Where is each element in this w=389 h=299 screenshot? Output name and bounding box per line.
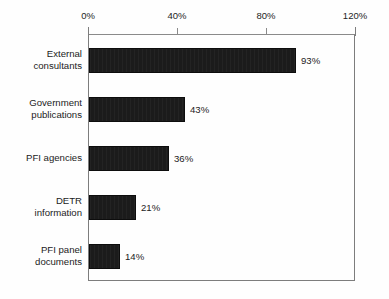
xtick-label-2: 80%	[256, 10, 275, 21]
bar-detr-information	[89, 195, 136, 220]
category-label-detr-information: DETR information	[0, 195, 82, 218]
category-label-external-consultants: External consultants	[0, 48, 82, 71]
bar-pfi-agencies	[89, 146, 169, 171]
bar-government-publications	[89, 97, 185, 122]
bar-pfi-panel-documents	[89, 244, 120, 269]
xtick-mark-1	[177, 28, 178, 35]
category-label-pfi-agencies: PFI agencies	[0, 152, 82, 164]
bar-value-pfi-agencies: 36%	[174, 153, 193, 164]
xtick-mark-2	[266, 28, 267, 35]
xtick-label-3: 120%	[343, 10, 367, 21]
xtick-label-0: 0%	[81, 10, 95, 21]
xtick-mark-3	[355, 27, 356, 36]
bar-value-government-publications: 43%	[190, 104, 209, 115]
bar-value-pfi-panel-documents: 14%	[125, 251, 144, 262]
xtick-label-1: 40%	[167, 10, 186, 21]
category-label-pfi-panel-documents: PFI panel documents	[0, 244, 82, 267]
bar-chart: 0% 40% 80% 120% External consultants Gov…	[0, 0, 389, 299]
bar-external-consultants	[89, 48, 296, 73]
category-label-government-publications: Government publications	[0, 97, 82, 120]
bar-value-detr-information: 21%	[141, 202, 160, 213]
bar-value-external-consultants: 93%	[301, 55, 320, 66]
